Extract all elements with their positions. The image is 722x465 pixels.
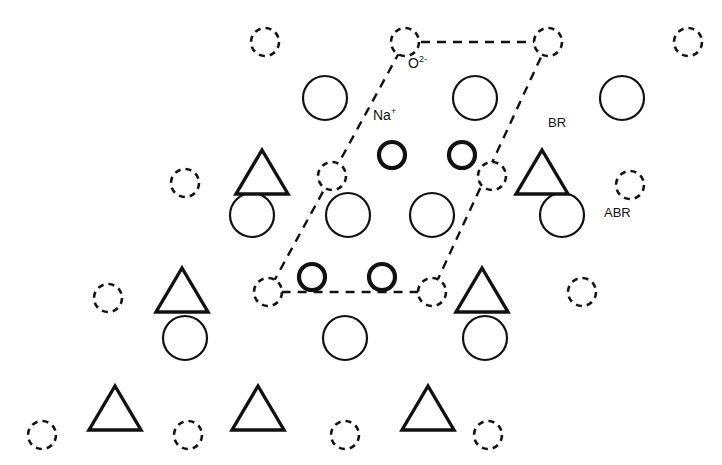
oxygen-label-charge: 2- [419,54,427,64]
oxygen-site [463,316,507,360]
abr-site [391,28,419,56]
abr-site [478,162,506,190]
oxygen-site [600,76,644,120]
abr-site [28,421,56,449]
br-site [156,268,208,312]
abr-site [674,28,702,56]
oxygen-site [326,193,370,237]
oxygen-label: O2- [408,56,427,70]
abr-site [616,171,644,199]
br-site [456,268,508,312]
oxygen-site [323,316,367,360]
abr-site [418,278,446,306]
abr-site [94,284,122,312]
abr-site [174,421,202,449]
br-site [236,150,288,194]
oxygen-site [540,193,584,237]
abr-site [474,421,502,449]
lattice-figure: O2- Na+ BR ABR [0,0,722,465]
oxygen-site [410,193,454,237]
abr-site [251,28,279,56]
oxygen-site [453,76,497,120]
sodium-ion [369,264,395,290]
br-label: BR [548,116,566,129]
sodium-ion [299,264,325,290]
unit-cell-layer [268,42,548,292]
abr-site [171,169,199,197]
large-circle-layer [163,76,644,360]
sodium-label-text: Na [373,107,391,123]
abr-site [568,278,596,306]
br-site [516,150,568,194]
abr-site [254,278,282,306]
unit-cell-outline [268,42,548,292]
sodium-label-charge: + [391,106,396,116]
sodium-label: Na+ [373,108,396,122]
sodium-ion [379,142,405,168]
oxygen-site [230,193,274,237]
triangle-layer [89,150,568,430]
abr-label: ABR [604,206,631,219]
abr-site [318,162,346,190]
br-site [402,386,454,430]
br-site [232,386,284,430]
oxygen-site [163,316,207,360]
oxygen-site [303,76,347,120]
br-site [89,386,141,430]
lattice-canvas [0,0,722,465]
abr-site [534,28,562,56]
abr-site [331,421,359,449]
oxygen-label-text: O [408,55,419,71]
sodium-ion [449,142,475,168]
